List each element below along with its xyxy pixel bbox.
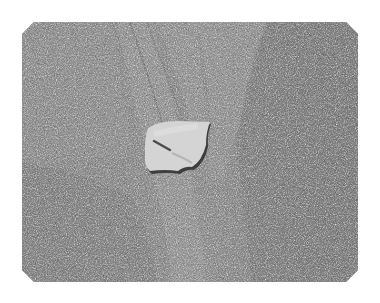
sand-photo (22, 22, 358, 282)
photo-canvas (22, 22, 358, 282)
